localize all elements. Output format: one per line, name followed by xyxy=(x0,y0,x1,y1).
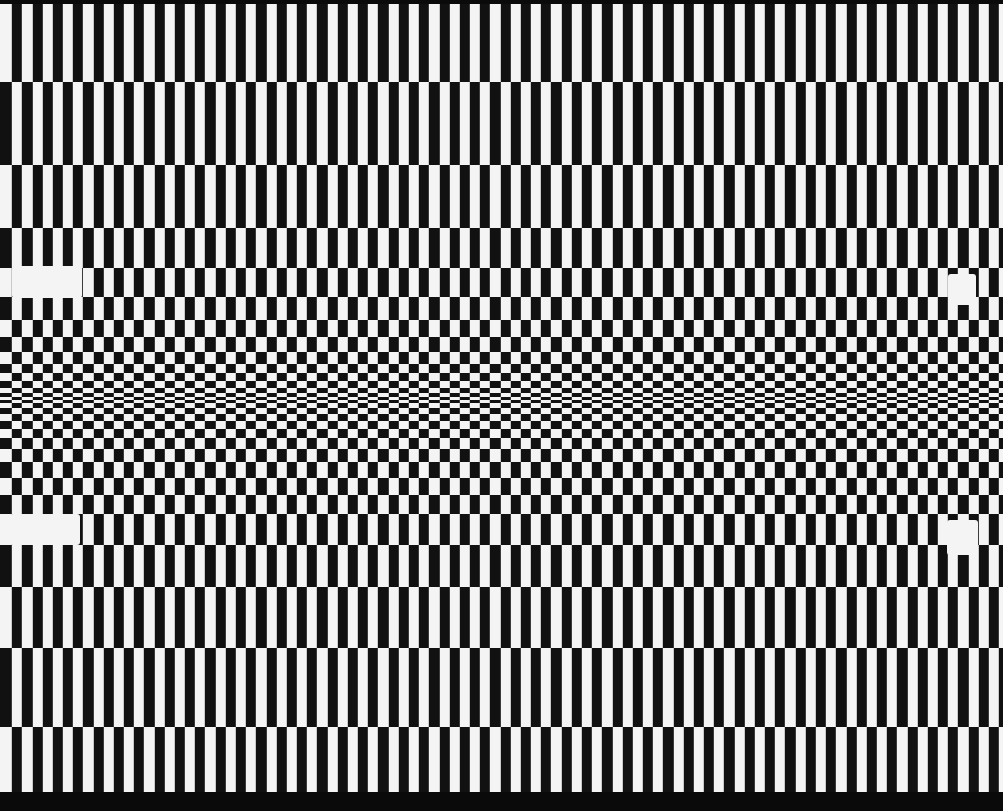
pattern-row xyxy=(0,648,1003,727)
pattern-row xyxy=(0,478,1003,495)
pattern-row xyxy=(0,495,1003,514)
marker-top-left xyxy=(12,266,82,298)
pattern-row xyxy=(0,449,1003,462)
pattern-row xyxy=(0,462,1003,478)
pattern-row xyxy=(0,297,1003,320)
bottom-border xyxy=(0,792,1003,811)
pattern-row xyxy=(0,165,1003,228)
pattern-row xyxy=(0,429,1003,438)
pattern-row xyxy=(0,438,1003,449)
pattern-row xyxy=(0,381,1003,388)
pattern-row xyxy=(0,4,1003,82)
top-border xyxy=(0,0,1003,4)
pattern-row xyxy=(0,268,1003,297)
pattern-row xyxy=(0,228,1003,268)
pattern-row xyxy=(0,514,1003,545)
pattern-row xyxy=(0,727,1003,792)
marker-bottom-left xyxy=(10,514,80,545)
pattern-row xyxy=(0,545,1003,587)
pattern-row xyxy=(0,421,1003,429)
marker-bottom-right xyxy=(947,520,978,555)
pattern-row xyxy=(0,320,1003,337)
marker-top-right xyxy=(948,274,976,305)
pattern-row xyxy=(0,82,1003,165)
pattern-row xyxy=(0,414,1003,421)
checkerboard-pattern xyxy=(0,0,1003,811)
pattern-row xyxy=(0,587,1003,648)
pattern-row xyxy=(0,373,1003,381)
pattern-row xyxy=(0,364,1003,373)
pattern-row xyxy=(0,352,1003,364)
pattern-row xyxy=(0,337,1003,352)
